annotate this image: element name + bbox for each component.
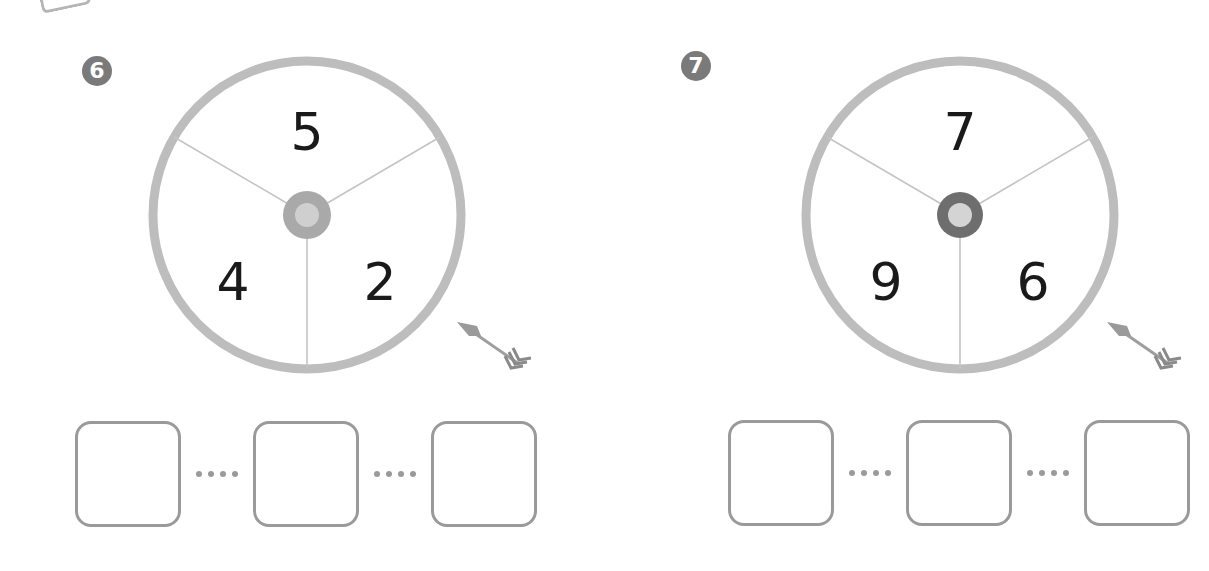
separator-dots	[359, 471, 431, 477]
answer-box-1[interactable]	[75, 421, 181, 527]
separator-dots	[181, 471, 253, 477]
arrow-icon	[1105, 318, 1185, 382]
spinner-value-top: 7	[943, 102, 976, 162]
problem-6: 6 5 4 2	[0, 0, 604, 571]
answer-box-1[interactable]	[728, 420, 834, 526]
spinner-wheel[interactable]: 5 4 2	[147, 50, 469, 380]
arrow-icon	[455, 318, 535, 382]
spinner-value-top: 5	[290, 102, 323, 162]
separator-dots	[834, 470, 906, 476]
answer-box-3[interactable]	[1084, 420, 1190, 526]
answer-box-2[interactable]	[906, 420, 1012, 526]
answer-row	[75, 421, 537, 527]
spinner-value-right: 6	[1016, 252, 1049, 312]
problem-number-badge: 7	[681, 51, 711, 81]
answer-box-3[interactable]	[431, 421, 537, 527]
problem-7: 7 7 9 6	[604, 0, 1208, 571]
problem-number-badge: 6	[82, 56, 112, 86]
answer-row	[728, 420, 1190, 526]
spinner-value-left: 4	[216, 252, 249, 312]
answer-box-2[interactable]	[253, 421, 359, 527]
spinner-value-right: 2	[363, 252, 396, 312]
spinner-value-left: 9	[869, 252, 902, 312]
separator-dots	[1012, 470, 1084, 476]
spinner-wheel[interactable]: 7 9 6	[800, 50, 1122, 380]
